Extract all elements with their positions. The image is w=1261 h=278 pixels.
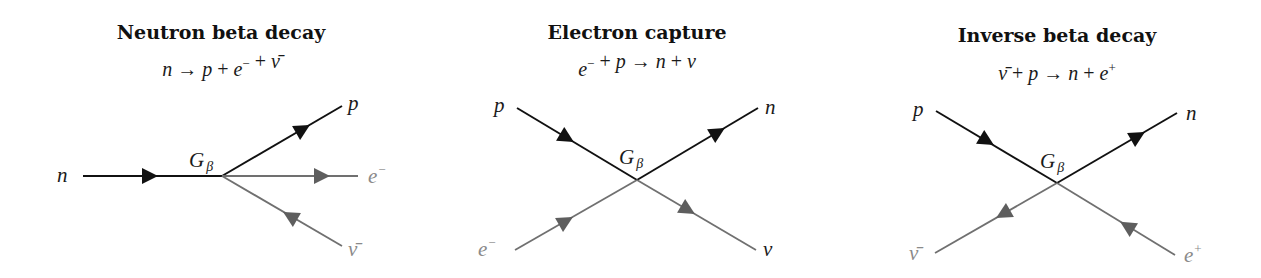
neutron-label: n: [765, 95, 776, 119]
beta-decay-feynman-diagrams: Neutron beta decay n → p + e− + ν̄ Gβ np…: [0, 0, 1261, 278]
proton-label: p: [492, 93, 505, 117]
panel-title: Neutron beta decay: [117, 21, 326, 43]
neutrino-label: ν: [763, 237, 773, 261]
proton-label: p: [911, 97, 924, 121]
neutron-label: n: [1186, 101, 1197, 125]
panel-title: Inverse beta decay: [958, 24, 1158, 46]
reaction-equation: ν̄ + p → n + e+: [998, 60, 1116, 85]
panel-title: Electron capture: [547, 21, 726, 43]
proton-label: p: [346, 91, 359, 115]
neutron-label: n: [57, 163, 68, 187]
